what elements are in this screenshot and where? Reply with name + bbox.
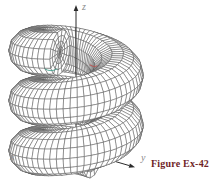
y-axis-label: y bbox=[141, 153, 145, 163]
z-axis-label: z bbox=[82, 2, 86, 12]
figure-caption: Figure Ex-42 bbox=[151, 158, 209, 170]
figure-ex-42: x y z Figure Ex-42 bbox=[0, 0, 214, 183]
z-axis-arrowhead bbox=[74, 5, 79, 11]
y-axis-arrowhead bbox=[129, 163, 135, 167]
spiral-tube-wireframe-plot bbox=[0, 0, 214, 183]
x-axis-label: x bbox=[10, 152, 14, 162]
